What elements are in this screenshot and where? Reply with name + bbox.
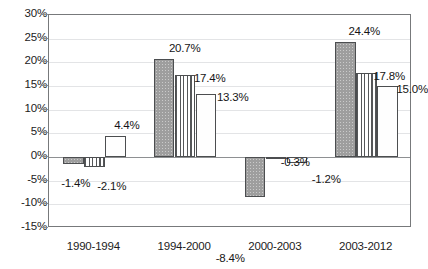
bar (377, 86, 398, 157)
data-label: 24.4% (348, 25, 380, 37)
x-axis-category-label: 2000-2003 (230, 240, 321, 252)
bar (175, 75, 196, 157)
y-axis-tick-label: 10% (3, 103, 47, 114)
bar (105, 136, 126, 157)
y-axis-tick-label: -10% (3, 197, 47, 208)
x-axis-category-label: 2003-2012 (320, 240, 411, 252)
data-label: -8.4% (216, 252, 245, 264)
data-label: 20.7% (169, 42, 201, 54)
data-label: -2.1% (97, 180, 126, 192)
data-label: 17.4% (194, 72, 226, 84)
bar (154, 59, 175, 157)
y-axis-tick-mark (42, 227, 48, 228)
y-axis-tick-label: -15% (3, 221, 47, 232)
bar (84, 157, 105, 167)
data-label: 17.8% (373, 70, 405, 82)
plot-area (48, 14, 411, 227)
gridline (49, 39, 410, 40)
bar (196, 94, 217, 157)
data-label: 13.3% (217, 91, 249, 103)
x-axis-category-label: 1994-2000 (139, 240, 230, 252)
data-label: -1.4% (61, 177, 90, 189)
y-axis-tick-label: 0% (3, 150, 47, 161)
y-axis-tick-label: 25% (3, 32, 47, 43)
bar (63, 157, 84, 164)
y-axis-tick-label: 15% (3, 79, 47, 90)
bar (356, 73, 377, 157)
bar (335, 42, 356, 157)
data-label: 4.4% (114, 119, 139, 131)
y-axis-tick-label: 20% (3, 55, 47, 66)
gridline (49, 204, 410, 205)
data-label: 15.0% (396, 83, 428, 95)
y-axis-tick-label: 5% (3, 126, 47, 137)
bar (245, 157, 266, 197)
y-axis-tick-label: 30% (3, 8, 47, 19)
x-axis-category-label: 1990-1994 (48, 240, 139, 252)
data-label: -1.2% (312, 173, 341, 185)
data-label: -0.3% (281, 156, 310, 168)
y-axis-tick-label: -5% (3, 174, 47, 185)
